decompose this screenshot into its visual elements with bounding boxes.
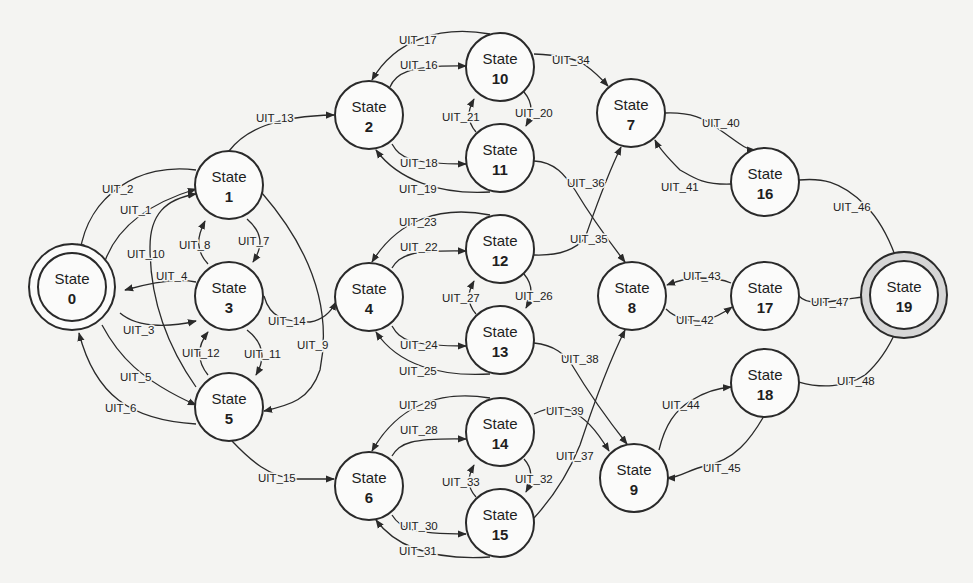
state-diagram-canvas: UIT_1UIT_2UIT_3UIT_4UIT_5UIT_6UIT_7UIT_8… — [0, 0, 973, 583]
state-title: State — [482, 50, 517, 67]
state-circle — [597, 79, 665, 147]
state-title: State — [482, 415, 517, 432]
transition-label: UIT_26 — [515, 290, 553, 302]
state-number: 1 — [225, 188, 233, 205]
state-circle — [466, 215, 534, 283]
state-node-8: State8 — [598, 262, 666, 330]
state-number: 2 — [365, 118, 373, 135]
transition-label: UIT_33 — [442, 476, 480, 488]
transition-label: UIT_3 — [123, 324, 154, 336]
transition-label: UIT_48 — [837, 375, 875, 387]
state-circle — [598, 262, 666, 330]
transition-label: UIT_1 — [120, 204, 151, 216]
state-node-4: State4 — [335, 263, 403, 331]
transition-label: UIT_31 — [399, 545, 437, 557]
state-title: State — [747, 165, 782, 182]
state-node-3: State3 — [195, 262, 263, 330]
state-title: State — [211, 168, 246, 185]
state-title: State — [351, 98, 386, 115]
state-title: State — [482, 141, 517, 158]
transition-label: UIT_38 — [561, 353, 599, 365]
state-number: 14 — [492, 435, 509, 452]
transition-label: UIT_37 — [556, 450, 594, 462]
transition-label: UIT_32 — [515, 473, 553, 485]
state-node-16: State16 — [731, 148, 799, 216]
transition-edge-16-to-19 — [799, 179, 897, 261]
state-node-1: State1 — [195, 151, 263, 219]
transition-label: UIT_43 — [683, 270, 721, 282]
state-number: 0 — [68, 290, 76, 307]
transition-label: UIT_16 — [400, 59, 438, 71]
state-circle — [731, 349, 799, 417]
state-title: State — [614, 279, 649, 296]
state-number: 4 — [365, 300, 374, 317]
state-number: 6 — [365, 489, 373, 506]
state-title: State — [747, 366, 782, 383]
state-circle — [466, 306, 534, 374]
transition-label: UIT_44 — [662, 399, 700, 411]
state-node-9: State9 — [600, 444, 668, 512]
transition-label: UIT_23 — [399, 216, 437, 228]
state-circle — [600, 444, 668, 512]
transition-label: UIT_27 — [442, 292, 480, 304]
state-number: 16 — [757, 185, 774, 202]
transition-label: UIT_22 — [400, 241, 438, 253]
state-node-14: State14 — [466, 398, 534, 466]
transition-label: UIT_17 — [399, 34, 437, 46]
transition-label: UIT_12 — [182, 347, 220, 359]
state-title: State — [351, 469, 386, 486]
state-title: State — [482, 506, 517, 523]
state-node-19: State19 — [861, 252, 947, 338]
state-circle — [335, 81, 403, 149]
state-node-2: State2 — [335, 81, 403, 149]
state-node-6: State6 — [335, 452, 403, 520]
state-title: State — [54, 270, 89, 287]
state-number: 7 — [627, 116, 635, 133]
transition-label: UIT_18 — [400, 157, 438, 169]
state-node-7: State7 — [597, 79, 665, 147]
state-number: 18 — [757, 386, 774, 403]
state-number: 8 — [628, 299, 636, 316]
state-number: 10 — [492, 70, 509, 87]
transition-label: UIT_20 — [515, 107, 553, 119]
state-circle — [731, 148, 799, 216]
state-number: 17 — [757, 299, 774, 316]
state-title: State — [616, 461, 651, 478]
state-number: 3 — [225, 299, 233, 316]
state-title: State — [613, 96, 648, 113]
state-node-15: State15 — [466, 489, 534, 557]
state-circle — [466, 33, 534, 101]
transition-label: UIT_34 — [552, 54, 590, 66]
state-node-5: State5 — [195, 373, 263, 441]
transition-edge-1-to-5 — [262, 193, 323, 411]
transition-label: UIT_36 — [567, 177, 605, 189]
state-number: 12 — [492, 252, 509, 269]
transition-edge-4-to-12 — [392, 251, 466, 268]
state-circle — [466, 124, 534, 192]
state-title: State — [351, 280, 386, 297]
transition-label: UIT_11 — [244, 348, 281, 360]
transition-label: UIT_47 — [811, 296, 849, 308]
transition-label: UIT_45 — [703, 462, 741, 474]
transition-label: UIT_9 — [297, 339, 328, 351]
transition-label: UIT_6 — [105, 402, 136, 414]
transition-label: UIT_42 — [676, 314, 714, 326]
state-number: 15 — [492, 526, 509, 543]
transition-label: UIT_21 — [442, 111, 480, 123]
state-circle — [870, 261, 938, 329]
state-circle — [195, 373, 263, 441]
state-number: 9 — [630, 481, 638, 498]
state-title: State — [482, 323, 517, 340]
state-node-13: State13 — [466, 306, 534, 374]
transition-label: UIT_10 — [127, 248, 165, 260]
transition-label: UIT_15 — [258, 472, 296, 484]
state-node-0: State0 — [29, 244, 115, 330]
transition-label: UIT_39 — [546, 405, 584, 417]
transition-label: UIT_30 — [400, 520, 438, 532]
transition-label: UIT_40 — [702, 117, 740, 129]
state-diagram: UIT_1UIT_2UIT_3UIT_4UIT_5UIT_6UIT_7UIT_8… — [0, 0, 973, 583]
state-number: 19 — [896, 298, 913, 315]
transition-label: UIT_25 — [399, 365, 437, 377]
state-circle — [335, 263, 403, 331]
transition-label: UIT_14 — [268, 315, 306, 327]
